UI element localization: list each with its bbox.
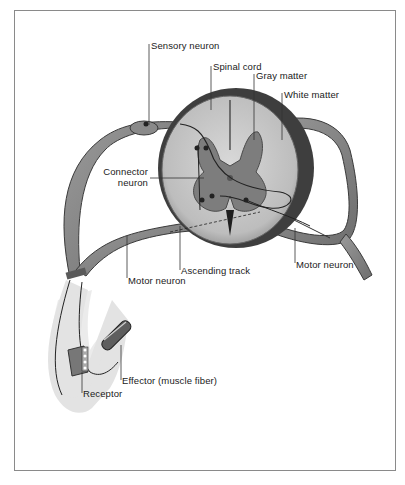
label-receptor: Receptor	[83, 388, 122, 399]
label-spinal-cord: Spinal cord	[213, 61, 262, 72]
label-motor-neuron-left: Motor neuron	[128, 275, 186, 286]
spinal-cord	[158, 88, 314, 248]
label-ascending-track: Ascending track	[181, 265, 250, 276]
label-effector: Effector (muscle fiber)	[122, 375, 217, 386]
label-connector-neuron-2: neuron	[100, 177, 148, 188]
label-gray-matter: Gray matter	[256, 70, 307, 81]
label-sensory-neuron: Sensory neuron	[151, 40, 219, 51]
label-white-matter: White matter	[284, 89, 339, 100]
receptor-structure	[68, 346, 88, 376]
label-connector-neuron-1: Connector	[100, 166, 148, 177]
label-motor-neuron-right: Motor neuron	[296, 259, 354, 270]
reflex-arc-illustration	[0, 0, 405, 485]
